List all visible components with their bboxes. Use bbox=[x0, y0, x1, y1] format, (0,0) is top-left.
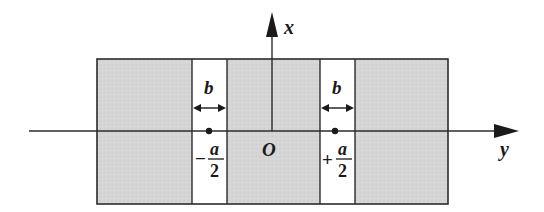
right-slit-width-label: b bbox=[332, 77, 342, 98]
origin-label: O bbox=[262, 139, 276, 160]
slit-diagram: y x O b − a 2 b + a 2 bbox=[0, 0, 544, 212]
right-position-denominator: 2 bbox=[338, 161, 347, 181]
left-slit-center-dot bbox=[206, 128, 212, 134]
y-axis-arrow-icon bbox=[494, 124, 519, 138]
right-position-sign: + bbox=[322, 149, 333, 170]
x-axis-arrow-icon bbox=[266, 12, 278, 37]
x-axis-label: x bbox=[283, 16, 294, 38]
right-position-numerator: a bbox=[338, 139, 347, 159]
right-slit-center-dot bbox=[332, 128, 338, 134]
left-position-sign: − bbox=[195, 148, 206, 169]
left-position-denominator: 2 bbox=[210, 161, 219, 181]
left-slit-width-label: b bbox=[204, 77, 214, 98]
left-position-numerator: a bbox=[210, 139, 219, 159]
y-axis-label: y bbox=[498, 138, 509, 161]
